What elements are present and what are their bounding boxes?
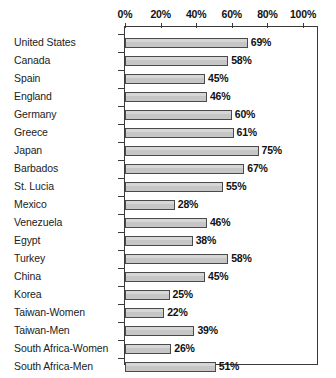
- bar-row: Egypt38%: [0, 232, 336, 250]
- bar-highlight: [126, 183, 222, 186]
- bar: [125, 326, 194, 336]
- category-label: United States: [14, 36, 118, 48]
- bar: [125, 236, 193, 246]
- bar-highlight: [126, 363, 215, 366]
- category-label: Greece: [14, 126, 118, 138]
- bar-value-label: 46%: [210, 90, 230, 102]
- bar-highlight: [126, 75, 204, 78]
- x-tick-label-0: 0%: [118, 8, 133, 20]
- y-tick-mark: [118, 322, 124, 323]
- bar-row: Venezuela46%: [0, 214, 336, 232]
- bar: [125, 146, 259, 156]
- category-label: Korea: [14, 288, 118, 300]
- y-tick-mark: [118, 286, 124, 287]
- bar-value-label: 69%: [251, 36, 271, 48]
- category-label: Spain: [14, 72, 118, 84]
- bar: [125, 110, 232, 120]
- bar-row: Germany60%: [0, 106, 336, 124]
- category-label: Mexico: [14, 198, 118, 210]
- bar-highlight: [126, 129, 233, 132]
- bar-value-label: 22%: [167, 306, 187, 318]
- x-tick-label-40: 40%: [186, 8, 206, 20]
- category-label: Taiwan-Women: [14, 306, 118, 318]
- category-label: Canada: [14, 54, 118, 66]
- bar-chart: 0%20%40%60%80%100% United States69%Canad…: [0, 0, 336, 378]
- y-tick-mark: [118, 70, 124, 71]
- bar-highlight: [126, 237, 192, 240]
- bar-value-label: 61%: [237, 126, 257, 138]
- y-tick-mark: [118, 160, 124, 161]
- bar: [125, 38, 248, 48]
- bar-row: South Africa-Men51%: [0, 358, 336, 376]
- bar-highlight: [126, 273, 204, 276]
- bar-row: South Africa-Women26%: [0, 340, 336, 358]
- bar: [125, 74, 205, 84]
- bar-value-label: 60%: [235, 108, 255, 120]
- y-tick-mark: [118, 196, 124, 197]
- bar-value-label: 25%: [173, 288, 193, 300]
- y-tick-mark: [118, 304, 124, 305]
- bar-highlight: [126, 147, 258, 150]
- y-tick-mark: [118, 142, 124, 143]
- bar-row: England46%: [0, 88, 336, 106]
- bar-row: Korea25%: [0, 286, 336, 304]
- y-tick-mark: [118, 340, 124, 341]
- bar: [125, 254, 228, 264]
- x-axis-tick-labels: 0%20%40%60%80%100%: [124, 8, 318, 22]
- y-tick-mark: [118, 250, 124, 251]
- bar-highlight: [126, 291, 169, 294]
- bar-row: China45%: [0, 268, 336, 286]
- bar-highlight: [126, 93, 206, 96]
- bar-highlight: [126, 309, 163, 312]
- bar-value-label: 58%: [231, 252, 251, 264]
- y-tick-mark: [118, 124, 124, 125]
- bar-value-label: 38%: [196, 234, 216, 246]
- bar-highlight: [126, 219, 206, 222]
- bar-highlight: [126, 111, 231, 114]
- bar-row: Taiwan-Men39%: [0, 322, 336, 340]
- category-label: South Africa-Women: [14, 342, 118, 354]
- bar-value-label: 55%: [226, 180, 246, 192]
- bar: [125, 164, 244, 174]
- y-tick-mark: [118, 232, 124, 233]
- bar-value-label: 51%: [219, 360, 239, 372]
- bar-highlight: [126, 201, 174, 204]
- bar-value-label: 28%: [178, 198, 198, 210]
- category-label: Barbados: [14, 162, 118, 174]
- bar: [125, 362, 216, 372]
- bar-row: St. Lucia55%: [0, 178, 336, 196]
- category-label: China: [14, 270, 118, 282]
- bar-row: Canada58%: [0, 52, 336, 70]
- y-tick-mark: [118, 52, 124, 53]
- x-tick-label-20: 20%: [150, 8, 170, 20]
- bar: [125, 92, 207, 102]
- bar-row: Barbados67%: [0, 160, 336, 178]
- bar: [125, 308, 164, 318]
- category-label: Egypt: [14, 234, 118, 246]
- bar: [125, 344, 171, 354]
- bar: [125, 128, 234, 138]
- bar-value-label: 46%: [210, 216, 230, 228]
- bar-value-label: 45%: [208, 270, 228, 282]
- bar-row: Turkey58%: [0, 250, 336, 268]
- bar-row: Spain45%: [0, 70, 336, 88]
- bar-value-label: 67%: [247, 162, 267, 174]
- bar-value-label: 45%: [208, 72, 228, 84]
- bar-row: Taiwan-Women22%: [0, 304, 336, 322]
- bar-highlight: [126, 327, 193, 330]
- bar: [125, 56, 228, 66]
- bar-highlight: [126, 57, 227, 60]
- y-tick-mark: [118, 106, 124, 107]
- bar-value-label: 58%: [231, 54, 251, 66]
- bar: [125, 200, 175, 210]
- bar: [125, 272, 205, 282]
- category-label: St. Lucia: [14, 180, 118, 192]
- category-label: Japan: [14, 144, 118, 156]
- category-label: South Africa-Men: [14, 360, 118, 372]
- bar-highlight: [126, 165, 243, 168]
- bar-value-label: 75%: [262, 144, 282, 156]
- bar-rows: United States69%Canada58%Spain45%England…: [0, 26, 336, 365]
- category-label: England: [14, 90, 118, 102]
- bar-row: Japan75%: [0, 142, 336, 160]
- category-label: Venezuela: [14, 216, 118, 228]
